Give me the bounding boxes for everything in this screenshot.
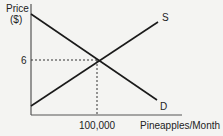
y-axis-label-unit: ($) <box>10 14 22 25</box>
y-axis-label-price: Price <box>6 3 29 14</box>
supply-curve <box>31 22 158 106</box>
supply-demand-chart <box>0 0 223 136</box>
equilibrium-price-tick: 6 <box>21 55 27 66</box>
x-axis-label: Pineapples/Month <box>140 120 220 131</box>
equilibrium-quantity-tick: 100,000 <box>79 120 115 131</box>
demand-label: D <box>160 101 167 112</box>
demand-curve <box>31 14 157 100</box>
supply-label: S <box>162 12 169 23</box>
